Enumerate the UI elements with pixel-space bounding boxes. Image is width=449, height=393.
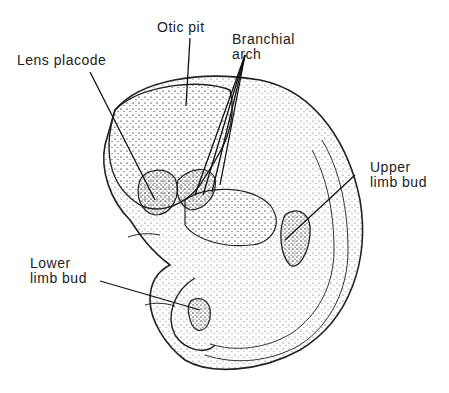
embryo-diagram: Lens placode Otic pit Branchial arch Upp… xyxy=(0,0,449,393)
label-otic-pit: Otic pit xyxy=(157,20,205,35)
label-lens-placode: Lens placode xyxy=(17,53,106,68)
label-lower-limb-bud: Lower limb bud xyxy=(30,256,87,286)
label-branchial-arch: Branchial arch xyxy=(232,32,295,62)
label-upper-limb-bud: Upper limb bud xyxy=(370,160,427,190)
